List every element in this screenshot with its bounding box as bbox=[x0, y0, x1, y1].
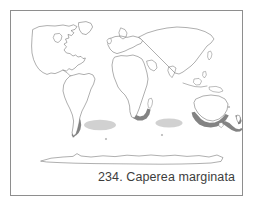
coastline-new-guinea bbox=[209, 86, 223, 92]
island-dot-south-atlantic bbox=[105, 138, 106, 139]
coastlines-group bbox=[32, 22, 241, 165]
coastline-tasmania bbox=[219, 122, 224, 127]
figure-caption: 234. Caperea marginata bbox=[98, 170, 234, 184]
coastline-antarctica bbox=[41, 154, 223, 165]
island-dot-indian-ocean bbox=[161, 134, 162, 135]
range-fringe-south-atlantic bbox=[84, 120, 116, 130]
coastline-madagascar bbox=[148, 98, 153, 108]
range-fringe-indian-ocean bbox=[156, 118, 183, 127]
distribution-map-figure: 234. Caperea marginata bbox=[0, 0, 256, 209]
coastline-japan bbox=[208, 51, 212, 60]
coastline-europe bbox=[108, 36, 143, 54]
coastline-philippines bbox=[203, 71, 207, 78]
coastline-borneo bbox=[193, 78, 201, 85]
island-dot-pacific bbox=[228, 106, 229, 107]
map-frame bbox=[10, 10, 243, 196]
coastline-north-america bbox=[32, 25, 86, 75]
coastline-greenland bbox=[79, 22, 93, 35]
coastline-arabia bbox=[147, 60, 157, 71]
coastline-africa bbox=[112, 55, 148, 118]
fringe-range-group bbox=[84, 118, 183, 130]
coastline-asia bbox=[139, 27, 214, 74]
